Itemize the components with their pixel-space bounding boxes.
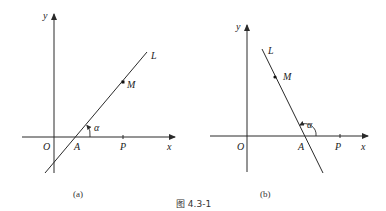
point-M [122,81,125,84]
line-L [262,49,323,173]
panel-a: y x O A P M L α (a) [22,10,175,199]
y-axis-label: y [235,21,241,32]
point-A-label: A [73,141,81,152]
figure-4-3-1: y x O A P M L α (a) y x O A P M L α (b) … [0,0,386,211]
point-M-label: M [282,71,292,82]
point-M-label: M [126,79,136,90]
origin-label: O [43,141,50,152]
diagram-canvas: y x O A P M L α (a) y x O A P M L α (b) … [0,0,386,211]
point-M [273,75,276,78]
x-axis-label: x [166,141,172,152]
angle-alpha-label: α [94,122,100,133]
panel-b: y x O A P M L α (b) [210,21,368,199]
figure-label: 图 4.3-1 [176,199,211,209]
line-L [45,52,147,173]
point-P-label: P [334,141,341,152]
point-A-label: A [297,141,305,152]
line-L-label: L [150,50,157,61]
y-axis-label: y [42,10,48,21]
caption-b: (b) [260,189,271,199]
angle-arc [87,126,90,138]
caption-a: (a) [73,189,83,199]
point-P-label: P [119,141,126,152]
angle-alpha-label: α [307,119,313,130]
x-axis-label: x [360,141,366,152]
origin-label: O [237,141,244,152]
line-L-label: L [267,45,274,56]
